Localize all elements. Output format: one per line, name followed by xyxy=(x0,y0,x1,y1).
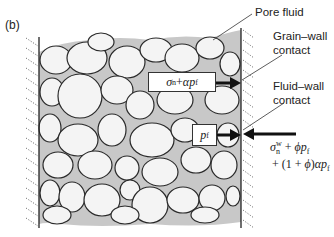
plus-sign: + xyxy=(176,75,183,90)
subscript-f: f xyxy=(195,78,198,87)
wall-reaction-line2: + (1 + ϕ)αpf xyxy=(272,157,330,176)
plus-sign: + xyxy=(282,140,295,154)
prefix: + (1 + xyxy=(272,157,305,171)
grain-wall-contact-label-line1: Grain–wall xyxy=(273,29,327,43)
fluid-wall-contact-label-line1: Fluid–wall xyxy=(273,79,324,93)
fluid-pressure-box: pf xyxy=(192,124,217,146)
grain-wall-contact-label-line2: contact xyxy=(273,43,310,57)
pore-fluid-label: Pore fluid xyxy=(255,5,304,19)
fluid-wall-contact-label-line2: contact xyxy=(273,93,310,107)
grain-stress-box: σn + αpf xyxy=(148,72,216,92)
subscript-f: f xyxy=(307,147,310,156)
subscript-f: f xyxy=(206,131,209,140)
subscript-f: f xyxy=(327,164,330,173)
